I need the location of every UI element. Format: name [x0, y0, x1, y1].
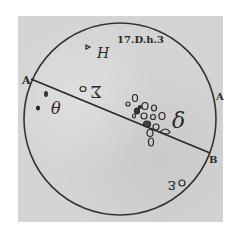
label-sigma: Σ [91, 82, 102, 101]
label-b: B [209, 154, 217, 165]
label-h: H [96, 45, 110, 61]
spot-small [179, 180, 185, 186]
sunspot-drawing: A A B 17.D.h.3 H Σ θ δ ε [0, 0, 239, 241]
spot-dark [36, 106, 40, 111]
label-a-left: A [21, 74, 31, 87]
spot-triangle [86, 45, 90, 49]
label-epsilon: ε [168, 177, 176, 196]
label-delta: δ [172, 108, 185, 133]
label-theta: θ [51, 99, 61, 118]
solar-disk-outline [24, 23, 216, 215]
label-a-right: A [215, 91, 224, 102]
spot-small [80, 87, 86, 92]
date-caption: 17.D.h.3 [117, 34, 164, 45]
spot-dark [44, 91, 48, 97]
